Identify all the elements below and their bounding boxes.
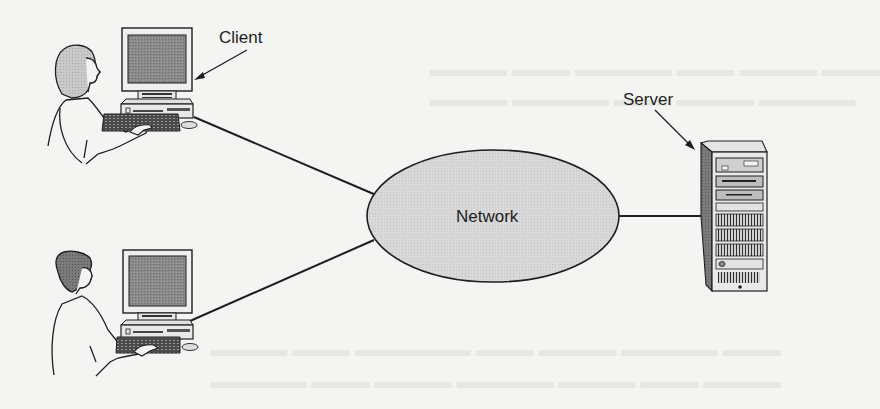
link-client-bottom-to-network [190, 240, 374, 321]
client-label: Client [219, 29, 262, 46]
client-top-monitor-icon [122, 28, 192, 100]
server-label: Server [623, 91, 673, 108]
mouse-icon [182, 344, 198, 351]
client-callout-arrow [194, 50, 247, 80]
server-callout-arrow [655, 110, 695, 150]
server-tower-icon [701, 141, 767, 291]
power-button-icon [719, 262, 725, 267]
client-bottom-monitor-icon [123, 250, 192, 321]
client-bottom-workstation [52, 250, 198, 376]
client-bottom-desktop-unit-icon [121, 320, 193, 339]
link-client-top-to-network [194, 117, 376, 195]
network-label: Network [456, 208, 518, 225]
mouse-icon [181, 122, 197, 129]
client-top-workstation [48, 28, 197, 164]
